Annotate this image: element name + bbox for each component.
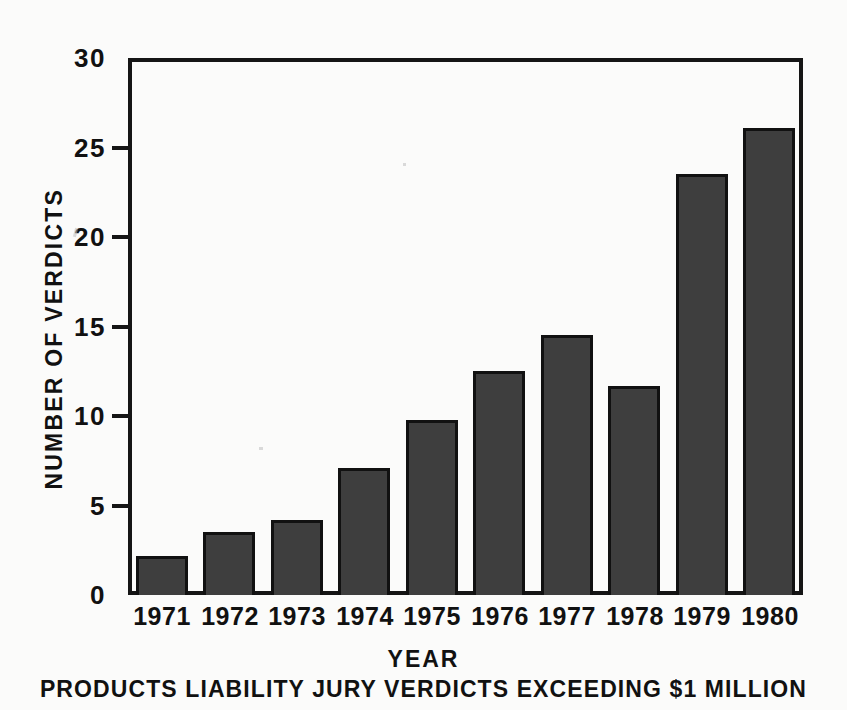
y-tick-label-30: 30	[44, 45, 106, 71]
x-tick-label-1979: 1979	[668, 604, 736, 629]
bar-1974	[338, 468, 390, 595]
x-axis-title: YEAR	[0, 646, 847, 673]
y-tick-label-25: 25	[44, 135, 106, 161]
bar-1972	[203, 532, 255, 595]
bar-1971	[136, 556, 188, 595]
bar-1979	[676, 174, 728, 595]
bars-layer	[128, 58, 803, 595]
x-tick-label-1976: 1976	[466, 604, 534, 629]
y-tick-label-0: 0	[44, 582, 106, 608]
x-tick-label-1972: 1972	[196, 604, 264, 629]
bar-1978	[608, 386, 660, 595]
bar-1976	[473, 371, 525, 595]
x-tick-label-1978: 1978	[601, 604, 669, 629]
scan-speck	[259, 447, 263, 450]
bar-1973	[271, 520, 323, 595]
y-axis-title: NUMBER OF VERDICTS	[41, 190, 68, 490]
x-tick-label-1977: 1977	[533, 604, 601, 629]
x-tick-label-1980: 1980	[736, 604, 804, 629]
x-tick-label-1973: 1973	[263, 604, 331, 629]
x-tick-label-1974: 1974	[331, 604, 399, 629]
chart-caption: PRODUCTS LIABILITY JURY VERDICTS EXCEEDI…	[0, 676, 847, 703]
chart-figure: 051015202530 197119721973197419751976197…	[0, 0, 847, 710]
bar-1980	[743, 128, 795, 595]
x-tick-label-1975: 1975	[398, 604, 466, 629]
x-tick-label-1971: 1971	[128, 604, 196, 629]
bar-1977	[541, 335, 593, 595]
scan-speck	[403, 163, 406, 166]
bar-1975	[406, 420, 458, 595]
y-tick-label-5: 5	[44, 493, 106, 519]
